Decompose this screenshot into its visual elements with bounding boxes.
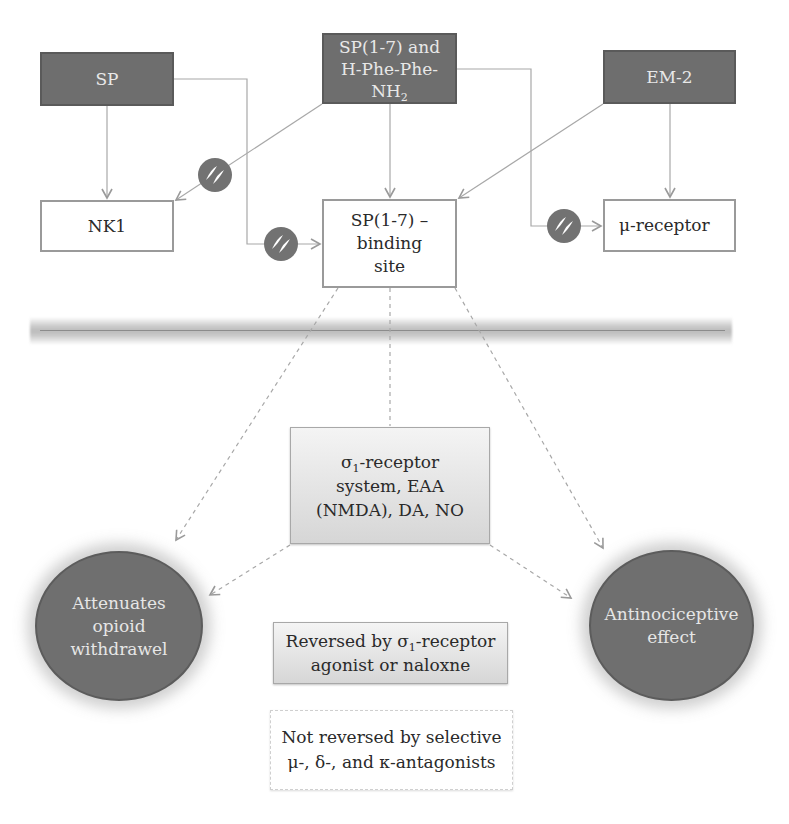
inhibit-icon-sp17-mu <box>546 208 582 244</box>
node-sp17-phe: SP(1-7) and H-Phe-Phe- NH2 <box>322 33 457 104</box>
reversed-line2: agonist or naloxne <box>311 653 471 677</box>
effect-right-line2: effect <box>647 626 696 649</box>
not-reversed-line1: Not reversed by selective <box>281 725 501 750</box>
node-sp17-line1: SP(1-7) and <box>339 36 440 58</box>
effect-left-line2: opioid <box>92 615 145 638</box>
inhibit-icon-sp-binding <box>263 226 299 262</box>
reversed-pre: Reversed by σ <box>286 631 409 651</box>
effect-antinociceptive: Antinociceptive effect <box>589 550 754 701</box>
note-not-reversed: Not reversed by selective μ-, δ-, and κ-… <box>270 710 513 790</box>
effect-left-line1: Attenuates <box>72 592 165 615</box>
not-reversed-line2: μ-, δ-, and κ-antagonists <box>288 750 496 775</box>
sigma-symbol: σ <box>341 452 353 472</box>
node-mu-label: μ-receptor <box>619 215 710 236</box>
node-sp17-line2: H-Phe-Phe- <box>341 58 438 80</box>
sigma-line1: σ1-receptor <box>341 450 439 474</box>
effect-attenuates-withdrawal: Attenuates opioid withdrawel <box>35 551 203 701</box>
sigma-line3: (NMDA), DA, NO <box>316 498 464 522</box>
node-nk1-label: NK1 <box>88 216 126 237</box>
reversed-post: -receptor <box>416 631 496 651</box>
sigma-line2: system, EAA <box>336 474 444 498</box>
node-sp-label: SP <box>95 69 118 90</box>
binding-line1: SP(1-7) – <box>351 209 429 232</box>
node-sp17-line3: NH2 <box>371 80 408 102</box>
node-nk1: NK1 <box>40 200 174 252</box>
node-binding-site: SP(1-7) – binding site <box>322 199 457 288</box>
binding-line3: site <box>374 255 405 278</box>
reversed-line1: Reversed by σ1-receptor <box>286 629 496 653</box>
nh-subscript: 2 <box>401 91 408 104</box>
effect-left-line3: withdrawel <box>71 638 168 661</box>
binding-line2: binding <box>357 232 422 255</box>
sigma-rest: -receptor <box>360 452 440 472</box>
node-sp: SP <box>40 52 174 106</box>
node-em2: EM-2 <box>603 50 736 104</box>
node-em2-label: EM-2 <box>646 67 692 88</box>
node-mu-receptor: μ-receptor <box>603 199 736 252</box>
node-sigma-system: σ1-receptor system, EAA (NMDA), DA, NO <box>290 427 490 544</box>
nh-text: NH <box>371 81 401 101</box>
note-reversed: Reversed by σ1-receptor agonist or nalox… <box>273 622 508 684</box>
inhibit-icon-sp17-nk1 <box>197 157 233 193</box>
effect-right-line1: Antinociceptive <box>604 603 738 626</box>
